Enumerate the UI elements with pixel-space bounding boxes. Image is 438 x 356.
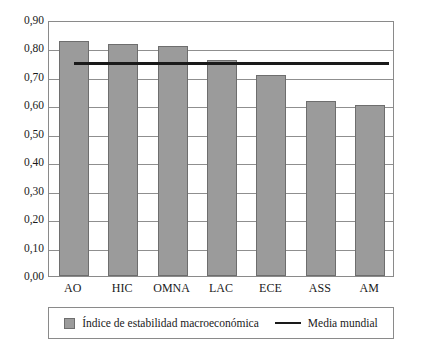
x-axis-tick-label-am: AM: [345, 281, 394, 295]
y-axis-tick-label: 0,80: [2, 43, 44, 55]
x-axis-tick-label-ass: ASS: [295, 281, 344, 295]
legend-items: Índice de estabilidad macroeconómicaMedi…: [49, 308, 393, 338]
y-axis-tick-label: 0,30: [2, 186, 44, 198]
bar-ass: [306, 101, 336, 277]
bar-lac: [207, 60, 237, 276]
legend-line-icon: [275, 322, 301, 324]
bars-layer: [49, 22, 393, 276]
y-axis-tick-label: 0,20: [2, 214, 44, 226]
x-axis-tick-label-ece: ECE: [246, 281, 295, 295]
y-axis-tick-label: 0,40: [2, 157, 44, 169]
y-axis: 0,000,100,200,300,400,500,600,700,800,90: [0, 21, 44, 277]
mean-reference-line: [74, 62, 389, 65]
legend-item-media-mundial: Media mundial: [275, 317, 378, 329]
bar-am: [355, 105, 385, 276]
macroeconomic-stability-chart: 0,000,100,200,300,400,500,600,700,800,90…: [0, 0, 438, 356]
plot-area: [48, 21, 394, 277]
x-axis-tick-label-hic: HIC: [97, 281, 146, 295]
y-axis-tick-label: 0,90: [2, 15, 44, 27]
y-axis-tick-label: 0,10: [2, 243, 44, 255]
bar-omna: [158, 46, 188, 276]
y-axis-tick-label: 0,70: [2, 72, 44, 84]
legend-swatch-icon: [64, 318, 75, 329]
bar-ao: [59, 41, 89, 276]
legend-label: Media mundial: [308, 317, 378, 329]
bar-hic: [108, 44, 138, 276]
chart-legend: Índice de estabilidad macroeconómicaMedi…: [48, 307, 394, 339]
legend-item-indice: Índice de estabilidad macroeconómica: [64, 317, 259, 329]
x-axis: AOHICOMNALACECEASSAM: [48, 281, 394, 299]
x-axis-tick-label-lac: LAC: [196, 281, 245, 295]
y-axis-tick-label: 0,50: [2, 129, 44, 141]
x-axis-tick-label-omna: OMNA: [147, 281, 196, 295]
bar-ece: [256, 75, 286, 276]
x-axis-tick-label-ao: AO: [48, 281, 97, 295]
y-axis-tick-label: 0,00: [2, 271, 44, 283]
y-axis-tick-label: 0,60: [2, 100, 44, 112]
legend-label: Índice de estabilidad macroeconómica: [82, 317, 259, 329]
